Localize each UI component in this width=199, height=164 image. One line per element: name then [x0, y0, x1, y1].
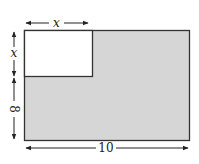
figure: x x 8 10 [0, 0, 199, 164]
left-upper-label: x [11, 46, 18, 60]
left-lower-dimension-arrow: 8 [7, 78, 21, 139]
left-upper-dimension-arrow: x [11, 32, 18, 76]
top-label: x [53, 16, 60, 30]
top-dimension-arrow: x [26, 16, 88, 30]
unshaded-square [25, 31, 93, 77]
left-lower-label: 8 [7, 105, 21, 113]
bottom-dimension-arrow: 10 [26, 141, 188, 155]
bottom-label: 10 [98, 141, 113, 155]
